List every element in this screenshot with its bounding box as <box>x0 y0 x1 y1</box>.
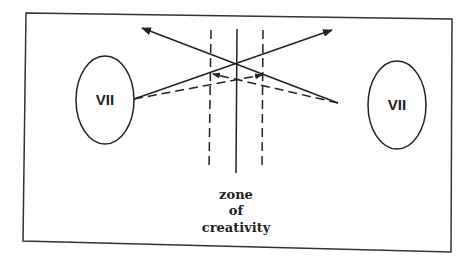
left-node-label: VII <box>96 91 114 108</box>
arrow-right-to-upper-left <box>142 28 338 103</box>
caption-line-1: zone <box>219 187 253 202</box>
caption-line-3: creativity <box>202 220 271 235</box>
caption-line-2: of <box>229 203 245 218</box>
diagram-canvas: VII VII zone of creativity <box>0 0 469 261</box>
right-node-label: VII <box>388 96 406 113</box>
zone-boundary-right <box>262 30 263 170</box>
zone-center-line <box>236 29 237 173</box>
zone-boundary-left <box>209 30 211 170</box>
dashed-arrow-left <box>134 75 262 99</box>
